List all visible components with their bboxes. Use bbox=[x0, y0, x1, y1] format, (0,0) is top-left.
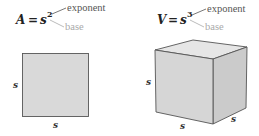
area-symbol: A bbox=[15, 13, 25, 27]
cube-right-face bbox=[213, 47, 247, 124]
volume-exponent-label: exponent bbox=[207, 3, 246, 14]
area-exponent-leader-line bbox=[52, 8, 66, 14]
volume-base-variable: s bbox=[180, 13, 187, 27]
cube-side-bottom-label: s bbox=[180, 121, 185, 131]
volume-formula: V = s 3 exponent base bbox=[157, 3, 246, 32]
exponent-diagram: A = s 2 exponent base s s V = s 3 expone… bbox=[0, 0, 259, 136]
cube-shape: s s s bbox=[146, 40, 247, 131]
volume-exponent: 3 bbox=[187, 9, 193, 19]
area-base-variable: s bbox=[40, 13, 47, 27]
area-base-label: base bbox=[65, 21, 84, 32]
volume-exponent-leader-line bbox=[192, 9, 206, 15]
area-equals: = bbox=[28, 13, 38, 27]
square-side-bottom-label: s bbox=[53, 120, 58, 130]
volume-base-leader-line bbox=[190, 20, 204, 27]
volume-base-label: base bbox=[205, 21, 224, 32]
area-base-leader-line bbox=[50, 20, 64, 27]
volume-equals: = bbox=[168, 13, 178, 27]
area-exponent: 2 bbox=[47, 9, 53, 19]
cube-side-right-label: s bbox=[231, 114, 236, 124]
area-exponent-label: exponent bbox=[67, 2, 106, 13]
square bbox=[23, 54, 89, 117]
square-shape: s s bbox=[13, 54, 89, 131]
area-formula: A = s 2 exponent base bbox=[15, 2, 106, 32]
cube-front-face bbox=[155, 50, 213, 124]
volume-symbol: V bbox=[157, 13, 168, 27]
cube-side-left-label: s bbox=[146, 77, 151, 87]
square-side-left-label: s bbox=[13, 80, 18, 90]
